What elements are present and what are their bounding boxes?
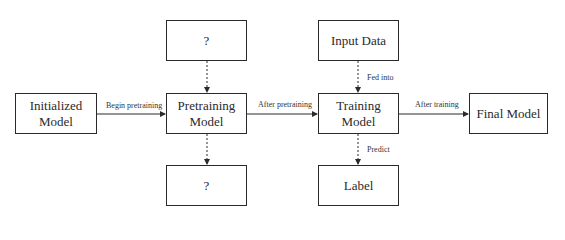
- node-pretraining-model: Pretraining Model: [166, 93, 247, 134]
- edge-label-predict: Predict: [367, 145, 390, 154]
- node-label: Label: [318, 165, 399, 206]
- node-final-model: Final Model: [469, 93, 548, 134]
- node-training-model: Training Model: [318, 93, 399, 134]
- node-bottom-unknown: ?: [166, 165, 247, 206]
- edge-label-begin-pretraining: Begin pretraining: [106, 101, 162, 110]
- edge-label-after-pretraining: After pretraining: [258, 100, 312, 109]
- node-input-data: Input Data: [318, 20, 399, 61]
- edge-label-fed-into: Fed into: [367, 73, 393, 82]
- node-initialized-model: Initialized Model: [15, 93, 97, 134]
- edge-label-after-training: After training: [415, 100, 459, 109]
- node-top-unknown: ?: [166, 20, 247, 61]
